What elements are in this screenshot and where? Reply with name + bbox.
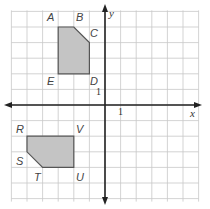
y-axis-down-arrow-icon xyxy=(102,197,108,205)
coordinate-grid-figure: y x 1 1 A B C D E R V S T U xyxy=(0,0,210,209)
vertex-label-c: C xyxy=(90,27,98,39)
x-axis-label: x xyxy=(189,107,195,119)
vertex-label-d: D xyxy=(90,75,98,87)
unit-tick-label-x: 1 xyxy=(118,106,123,117)
vertex-label-b: B xyxy=(76,11,83,23)
x-axis-right-arrow-icon xyxy=(194,102,202,108)
vertex-label-u: U xyxy=(76,171,84,183)
vertex-label-r: R xyxy=(16,123,24,135)
vertex-label-t: T xyxy=(34,171,42,183)
polygon-abcde xyxy=(58,27,89,74)
vertex-label-a: A xyxy=(46,11,54,23)
y-axis-label: y xyxy=(108,7,114,19)
polygon-rstuv xyxy=(27,136,74,167)
vertex-label-s: S xyxy=(16,155,24,167)
vertex-label-e: E xyxy=(47,75,55,87)
unit-tick-label-y: 1 xyxy=(96,86,101,97)
x-axis-left-arrow-icon xyxy=(4,102,12,108)
y-axis-up-arrow-icon xyxy=(102,4,108,12)
vertex-label-v: V xyxy=(76,123,85,135)
